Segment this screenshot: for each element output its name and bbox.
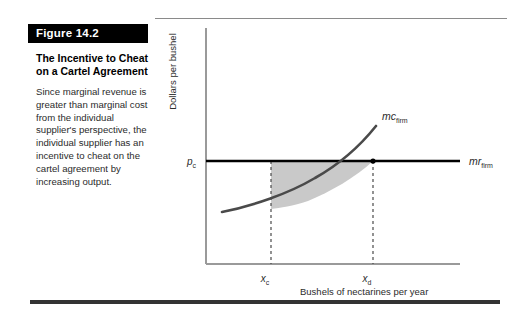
mr-firm-label: mrfirm [469, 155, 493, 169]
chart-svg: mcfirm mrfirm pc xc xd [160, 14, 510, 304]
figure-page: Figure 14.2 The Incentive to Cheat on a … [0, 0, 513, 317]
figure-caption-text: Since marginal revenue is greater than m… [28, 86, 156, 189]
shaded-region [271, 161, 373, 209]
chart-area: Dollars per bushel Bushels of nectarines… [160, 14, 510, 304]
y-tick-label-pc: pc [186, 156, 197, 169]
figure-title: The Incentive to Cheat on a Cartel Agree… [28, 52, 156, 79]
figure-number-banner: Figure 14.2 [28, 24, 148, 43]
mc-firm-label: mcfirm [382, 110, 408, 124]
intersection-marker [370, 158, 375, 163]
x-tick-label-xc: xc [260, 273, 270, 286]
x-tick-label-xd: xd [362, 273, 372, 286]
caption-column: Figure 14.2 The Incentive to Cheat on a … [28, 24, 156, 189]
